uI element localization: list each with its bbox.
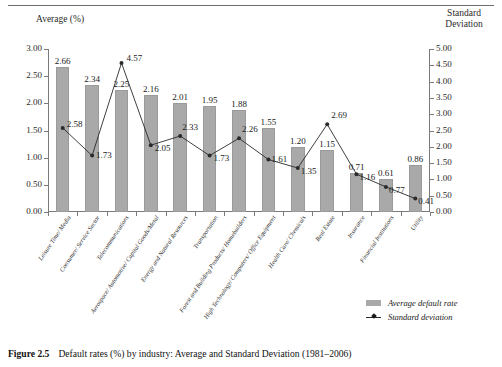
stddev-marker bbox=[208, 154, 212, 158]
left-tick-label: 2.50 bbox=[26, 70, 42, 80]
right-tick-mark bbox=[430, 179, 434, 180]
stddev-value-label: 2.58 bbox=[67, 119, 83, 129]
right-tick-mark bbox=[430, 131, 434, 132]
stddev-marker bbox=[178, 134, 182, 138]
left-tick-label: 1.00 bbox=[26, 152, 42, 162]
left-tick-label: 3.00 bbox=[26, 43, 42, 53]
legend-item-stddev: Standard deviation bbox=[366, 310, 457, 324]
right-tick-label: 0.00 bbox=[436, 206, 452, 216]
stddev-marker bbox=[384, 185, 388, 189]
stddev-marker bbox=[325, 122, 329, 126]
legend-label-average: Average default rate bbox=[388, 298, 457, 308]
right-axis-title-line2: Deviation bbox=[432, 19, 496, 30]
figure-number: Figure 2.5 bbox=[8, 348, 49, 359]
legend-swatch-icon bbox=[366, 300, 381, 306]
right-tick-label: 1.00 bbox=[436, 173, 452, 183]
stddev-marker bbox=[413, 197, 417, 201]
right-tick-label: 2.50 bbox=[436, 125, 452, 135]
right-tick-mark bbox=[430, 98, 434, 99]
right-tick-label: 1.50 bbox=[436, 157, 452, 167]
right-tick-label: 2.00 bbox=[436, 141, 452, 151]
right-axis-title-line1: Standard bbox=[432, 8, 496, 19]
left-tick-label: 0.00 bbox=[26, 206, 42, 216]
stddev-marker bbox=[355, 172, 359, 176]
right-tick-label: 5.00 bbox=[436, 43, 452, 53]
right-tick-mark bbox=[430, 114, 434, 115]
left-tick-label: 1.50 bbox=[26, 125, 42, 135]
left-tick-label: 2.00 bbox=[26, 97, 42, 107]
left-axis-title: Average (%) bbox=[36, 14, 84, 24]
stddev-marker bbox=[296, 166, 300, 170]
stddev-value-label: 2.05 bbox=[155, 143, 171, 153]
figure-page: Average (%) Standard Deviation 0.000.501… bbox=[0, 0, 502, 367]
stddev-marker bbox=[266, 158, 270, 162]
stddev-marker bbox=[61, 126, 65, 130]
figure-caption-text: Default rates (%) by industry: Average a… bbox=[58, 348, 351, 359]
right-tick-label: 4.00 bbox=[436, 76, 452, 86]
stddev-marker bbox=[90, 154, 94, 158]
chart-legend: Average default rate Standard deviation bbox=[366, 296, 457, 324]
right-tick-mark bbox=[430, 65, 434, 66]
figure-caption: Figure 2.5Default rates (%) by industry:… bbox=[8, 348, 494, 359]
stddev-marker bbox=[237, 136, 241, 140]
right-tick-label: 0.50 bbox=[436, 190, 452, 200]
x-tick-mark bbox=[430, 212, 431, 216]
stddev-value-label: 2.26 bbox=[242, 124, 258, 134]
legend-item-average: Average default rate bbox=[366, 296, 457, 310]
right-tick-label: 3.50 bbox=[436, 92, 452, 102]
category-axis-labels: Leisure Time/ MediaConsumer/ Service Sec… bbox=[48, 214, 430, 292]
stddev-value-label: 4.57 bbox=[126, 53, 142, 63]
right-tick-mark bbox=[430, 147, 434, 148]
right-tick-label: 4.50 bbox=[436, 59, 452, 69]
right-tick-mark bbox=[430, 82, 434, 83]
stddev-value-label: 2.33 bbox=[182, 122, 198, 132]
right-tick-label: 3.00 bbox=[436, 108, 452, 118]
stddev-marker bbox=[120, 61, 124, 65]
right-tick-mark bbox=[430, 49, 434, 50]
right-axis-title: Standard Deviation bbox=[432, 8, 496, 29]
stddev-value-label: 1.73 bbox=[96, 150, 112, 160]
legend-line-marker-icon bbox=[366, 314, 381, 321]
left-tick-label: 0.50 bbox=[26, 179, 42, 189]
stddev-value-label: 1.16 bbox=[360, 172, 376, 182]
top-divider bbox=[8, 5, 494, 6]
right-tick-mark bbox=[430, 163, 434, 164]
stddev-marker bbox=[149, 143, 153, 147]
legend-label-stddev: Standard deviation bbox=[388, 312, 453, 322]
